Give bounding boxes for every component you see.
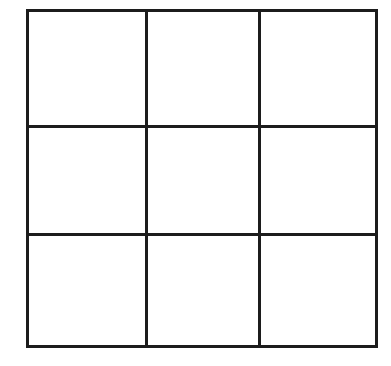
- grid-cell-1-3[interactable]: [261, 12, 375, 125]
- grid-cell-2-2[interactable]: [148, 128, 258, 233]
- grid-cell-2-3[interactable]: [261, 128, 375, 233]
- grid-cell-3-3[interactable]: [261, 236, 375, 345]
- grid-cell-2-1[interactable]: [29, 128, 145, 233]
- grid-cell-3-1[interactable]: [29, 236, 145, 345]
- grid-cell-1-2[interactable]: [148, 12, 258, 125]
- tic-tac-toe-grid: [26, 9, 378, 348]
- grid-cell-3-2[interactable]: [148, 236, 258, 345]
- grid-cell-1-1[interactable]: [29, 12, 145, 125]
- grid-border-bottom: [26, 345, 378, 348]
- grid-border-right: [375, 9, 378, 348]
